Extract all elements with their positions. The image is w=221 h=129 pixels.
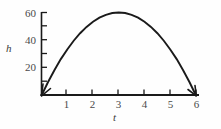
x-tick-label-1: 1 <box>62 99 71 110</box>
height-vs-time-chart: 60 40 20 h 1 2 3 4 5 6 t <box>0 0 221 129</box>
y-tick-label-60: 60 <box>16 8 36 19</box>
x-tick-label-6: 6 <box>192 99 201 110</box>
x-tick-label-3: 3 <box>114 99 123 110</box>
x-tick-label-2: 2 <box>88 99 97 110</box>
x-tick-label-5: 5 <box>166 99 175 110</box>
y-axis-label: h <box>6 43 12 54</box>
y-tick-label-20: 20 <box>16 62 36 73</box>
y-tick-label-40: 40 <box>16 35 36 46</box>
x-tick-label-4: 4 <box>140 99 149 110</box>
x-axis-label: t <box>113 112 116 123</box>
y-axis-ticks <box>42 13 48 82</box>
height-curve <box>42 13 197 96</box>
